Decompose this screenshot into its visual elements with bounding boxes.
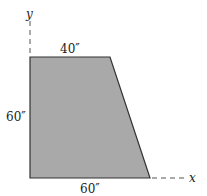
diagram-canvas: y x 40″ 60″ 60″ <box>0 0 207 196</box>
trapezoid-area <box>30 57 150 178</box>
y-axis-label: y <box>25 7 33 21</box>
x-axis-label: x <box>189 171 196 185</box>
left-height-label: 60″ <box>6 110 26 124</box>
top-width-label: 40″ <box>60 42 80 56</box>
bottom-width-label: 60″ <box>80 182 100 196</box>
trapezoid-diagram: y x 40″ 60″ 60″ <box>0 0 207 196</box>
